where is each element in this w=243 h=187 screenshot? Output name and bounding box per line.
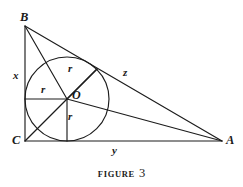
vertex-label-C: C <box>12 134 20 147</box>
figure-caption-word: Figure <box>98 169 135 179</box>
incenter-label-O: O <box>72 89 81 101</box>
radius-label-left: r <box>41 84 45 95</box>
radius-label-bottom: r <box>68 111 72 122</box>
figure-caption-number: 3 <box>139 166 145 180</box>
side-label-y: y <box>112 145 117 156</box>
vertex-label-B: B <box>20 11 28 24</box>
geometry-diagram <box>0 0 243 187</box>
radius-label-top: r <box>68 63 72 74</box>
cevian-O-to-A <box>67 99 222 141</box>
side-AB <box>25 26 222 141</box>
vertex-label-A: A <box>226 134 234 147</box>
figure-caption: Figure3 <box>0 163 243 181</box>
figure-container: B C A O x y z r r r Figure3 <box>0 0 243 187</box>
side-label-x: x <box>13 70 19 81</box>
side-label-z: z <box>123 67 127 78</box>
cevian-B-to-O <box>25 26 67 99</box>
